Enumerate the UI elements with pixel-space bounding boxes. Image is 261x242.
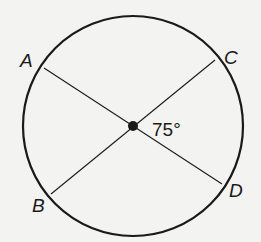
label-b: B	[32, 195, 45, 216]
circle-diagram: A C B D 75°	[0, 0, 261, 242]
center-point	[128, 121, 138, 131]
label-d: D	[229, 180, 243, 201]
angle-label: 75°	[152, 119, 181, 140]
label-c: C	[224, 47, 238, 68]
label-a: A	[19, 50, 33, 71]
